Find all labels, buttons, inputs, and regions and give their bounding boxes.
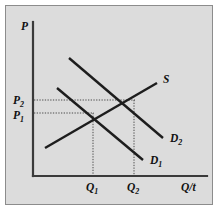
quantity-tick-q1-sub: 1 [94,187,98,196]
quantity-tick-q1-base: Q [86,181,94,193]
quantity-tick-q2-sub: 2 [134,187,139,196]
demand-curve-2-label: D2 [169,132,182,147]
price-tick-p2-sub: 2 [19,100,24,109]
quantity-tick-q2-base: Q [127,181,135,193]
supply-demand-chart: P Q/t P2 P1 Q1 Q2 S D1 D2 [0,0,219,212]
supply-curve-label-base: S [163,73,169,85]
price-tick-p1: P1 [13,109,24,124]
quantity-axis-label: Q/t [181,181,197,193]
quantity-tick-q2: Q2 [127,181,139,196]
demand-curve-1-label-sub: 1 [158,160,162,169]
price-tick-p1-sub: 1 [20,115,24,124]
demand-curve-2-label-sub: 2 [177,138,182,147]
quantity-tick-q1: Q1 [86,181,98,196]
price-tick-p2: P2 [13,94,24,109]
price-axis-label: P [21,20,29,32]
supply-curve-label: S [163,73,169,85]
figure-root: P Q/t P2 P1 Q1 Q2 S D1 D2 [0,0,219,212]
demand-curve-1-label: D1 [149,154,162,169]
